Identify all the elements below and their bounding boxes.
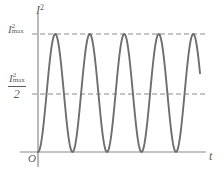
y-tick-label-half-scripts: 2max [13,72,25,84]
y-tick-label-half-denominator: 2 [8,87,26,100]
sine-squared-curve [38,34,200,152]
y-axis-title: I2 [36,3,44,16]
origin-label: O [28,153,36,164]
chart-plot [0,0,224,176]
y-tick-label-max-subscript: max [12,28,24,35]
y-tick-label-half-numerator: I2max [8,73,26,87]
y-tick-label-max-scripts: 2max [12,23,24,35]
y-axis-title-exponent: 2 [40,3,44,12]
y-tick-label-half-subscript: max [13,77,25,84]
y-tick-label-half-max: I2max2 [8,73,26,100]
y-tick-label-max: I2max [8,24,24,36]
x-axis-title: t [209,150,212,162]
figure-container: I2 t O I2max I2max2 [0,0,224,176]
